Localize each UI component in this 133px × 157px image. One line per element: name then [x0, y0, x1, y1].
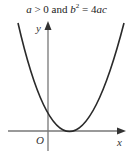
- origin-label: O: [36, 134, 44, 146]
- graph: y x O: [0, 0, 133, 157]
- x-axis-arrow-icon: [117, 128, 126, 135]
- parabola-curve: [18, 23, 124, 132]
- x-axis-label: x: [116, 136, 122, 148]
- y-axis-label: y: [35, 22, 41, 34]
- y-axis-arrow-icon: [45, 21, 52, 30]
